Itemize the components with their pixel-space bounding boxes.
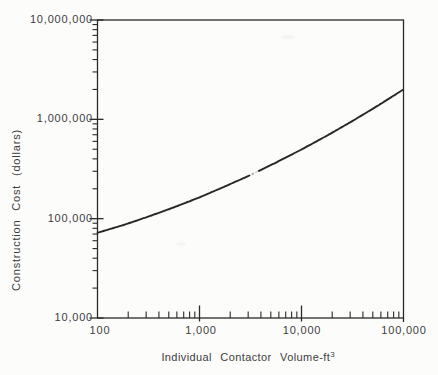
scan-smudges	[176, 35, 295, 246]
construction-cost-figure: 10,000,000 1,000,000 100,000 10,000 100 …	[0, 0, 438, 375]
x-tick-label-100000: 100,000	[381, 324, 426, 336]
y-tick-label-10000: 10,000	[55, 311, 93, 323]
y-tick-label-10000000: 10,000,000	[30, 13, 93, 25]
x-axis-title: Individual Contactor Volume-ft3	[161, 351, 334, 363]
cost-curve	[98, 90, 403, 233]
curve-gap-artifact	[251, 171, 257, 175]
y-tick-label-1000000: 1,000,000	[37, 112, 93, 124]
x-tick-label-100: 100	[90, 324, 111, 336]
gap-dot	[251, 173, 254, 176]
x-tick-label-1000: 1,000	[185, 324, 217, 336]
x-tick-label-10000: 10,000	[283, 324, 321, 336]
cost-curve-left-segment	[98, 176, 250, 233]
gap-faint-dash	[256, 171, 258, 172]
y-axis-ticks	[90, 20, 104, 318]
cost-curve-right-segment	[259, 90, 403, 171]
plot-border	[98, 20, 404, 318]
ft-exponent: 3	[330, 350, 334, 359]
x-axis-ticks	[128, 306, 403, 323]
y-tick-label-100000: 100,000	[48, 212, 93, 224]
x-axis-title-text: Individual Contactor Volume-ft	[161, 351, 330, 363]
y-axis-title: Construction Cost (dollars)	[10, 110, 24, 310]
